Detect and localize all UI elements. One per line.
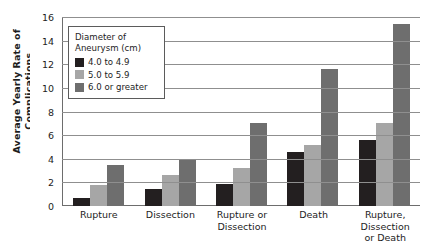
legend-swatch-icon bbox=[75, 58, 84, 67]
legend-swatch-icon bbox=[75, 83, 84, 92]
x-tick-label: Rupture bbox=[63, 209, 135, 244]
gridline bbox=[62, 182, 420, 183]
y-tick-label: 14 bbox=[24, 35, 54, 46]
bar[interactable] bbox=[287, 152, 304, 206]
bar[interactable] bbox=[304, 145, 321, 206]
y-tick-label: 4 bbox=[24, 153, 54, 164]
gridline bbox=[62, 159, 420, 160]
y-tick-label: 10 bbox=[24, 82, 54, 93]
y-tick-label: 0 bbox=[24, 201, 54, 212]
x-tick-label: Rupture, Dissection or Death bbox=[349, 209, 421, 244]
y-tick-label: 2 bbox=[24, 177, 54, 188]
bar[interactable] bbox=[90, 185, 107, 206]
legend-item[interactable]: 4.0 to 4.9 bbox=[75, 57, 158, 67]
legend-item-label: 6.0 or greater bbox=[88, 82, 147, 92]
y-tick-label: 12 bbox=[24, 59, 54, 70]
x-tick-label: Death bbox=[278, 209, 350, 244]
legend: Diameter of Aneurysm (cm) 4.0 to 4.95.0 … bbox=[68, 26, 165, 99]
y-tick-label: 8 bbox=[24, 106, 54, 117]
legend-item-label: 4.0 to 4.9 bbox=[88, 57, 129, 67]
bar[interactable] bbox=[162, 175, 179, 206]
bar[interactable] bbox=[359, 140, 376, 206]
bar[interactable] bbox=[107, 165, 124, 206]
bar[interactable] bbox=[73, 198, 90, 206]
bar[interactable] bbox=[321, 69, 338, 206]
y-tick-label: 16 bbox=[24, 12, 54, 23]
gridline bbox=[62, 17, 420, 18]
x-axis-tick-labels: RuptureDissectionRupture or DissectionDe… bbox=[63, 209, 421, 244]
x-tick-label: Dissection bbox=[135, 209, 207, 244]
legend-item[interactable]: 5.0 to 5.9 bbox=[75, 70, 158, 80]
gridline bbox=[62, 135, 420, 136]
legend-title: Diameter of Aneurysm (cm) bbox=[75, 32, 158, 53]
legend-swatch-icon bbox=[75, 70, 84, 79]
y-tick-label: 6 bbox=[24, 130, 54, 141]
x-tick-label: Rupture or Dissection bbox=[206, 209, 278, 244]
bar[interactable] bbox=[216, 184, 233, 206]
gridline bbox=[62, 112, 420, 113]
legend-item[interactable]: 6.0 or greater bbox=[75, 82, 158, 92]
bar[interactable] bbox=[393, 24, 410, 206]
bar[interactable] bbox=[233, 168, 250, 206]
bar[interactable] bbox=[145, 189, 162, 206]
legend-item-label: 5.0 to 5.9 bbox=[88, 70, 129, 80]
legend-items: 4.0 to 4.95.0 to 5.96.0 or greater bbox=[75, 57, 158, 92]
